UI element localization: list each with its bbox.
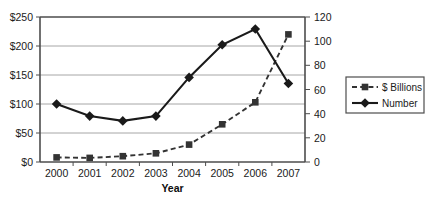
billions-marker-2007 [285,31,292,38]
y-right-tick-120: 120 [314,11,332,23]
billions-marker-2000 [53,154,60,161]
billions-marker-2002 [120,153,127,160]
y-right-tick-40: 40 [314,108,326,120]
y-right-tick-80: 80 [314,59,326,71]
billions-marker-2001 [86,155,93,162]
y-right-tick-0: 0 [314,156,320,168]
x-tick-2007: 2007 [277,167,301,179]
chart-legend: $ Billions Number [346,77,424,113]
y-right-tick-60: 60 [314,84,326,96]
y-left-tick-200: $200 [10,40,34,52]
y-left-tick-100: $100 [10,98,34,110]
chart-svg: $250 $200 $150 $100 $50 $0 120 100 80 60… [0,0,435,205]
legend-label-number: Number [382,98,418,109]
y-left-tick-150: $150 [10,69,34,81]
chart-container: $250 $200 $150 $100 $50 $0 120 100 80 60… [0,0,435,205]
x-tick-2004: 2004 [177,167,201,179]
legend-label-billions: $ Billions [382,82,422,93]
x-axis-title: Year [161,182,183,194]
x-tick-2002: 2002 [111,167,135,179]
x-tick-2003: 2003 [144,167,168,179]
legend-swatch-billions-marker [362,84,369,91]
billions-marker-2006 [252,99,259,106]
billions-marker-2005 [219,121,226,128]
x-tick-2000: 2000 [45,167,69,179]
y-right-tick-20: 20 [314,132,326,144]
x-tick-2006: 2006 [244,167,268,179]
x-tick-2001: 2001 [78,167,102,179]
y-left-tick-50: $50 [15,127,33,139]
y-right-tick-100: 100 [314,35,332,47]
y-left-tick-250: $250 [10,11,34,23]
y-left-tick-0: $0 [21,156,33,168]
billions-marker-2004 [186,141,193,148]
x-tick-2005: 2005 [211,167,235,179]
billions-marker-2003 [153,150,160,157]
